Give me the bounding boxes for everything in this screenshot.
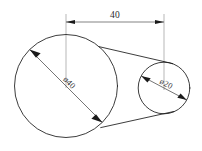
large-diameter-arrowhead-start [30,50,41,58]
large-diameter-arrowhead-end [91,114,102,122]
dimension-arrowhead-right [155,20,164,24]
dimension-arrowhead-left [66,20,75,24]
cad-drawing-svg: 40 ø40 ø20 [0,0,202,151]
small-diameter-arrowhead-start [141,76,151,83]
large-circle-diameter-label: ø40 [61,74,78,91]
small-diameter-arrowhead-end [177,93,187,100]
upper-tangent-line [99,47,172,64]
small-circle-diameter-label: ø20 [158,76,174,91]
center-distance-label: 40 [110,10,120,20]
engineering-drawing-canvas: 40 ø40 ø20 [0,0,202,151]
lower-tangent-line [101,112,174,128]
